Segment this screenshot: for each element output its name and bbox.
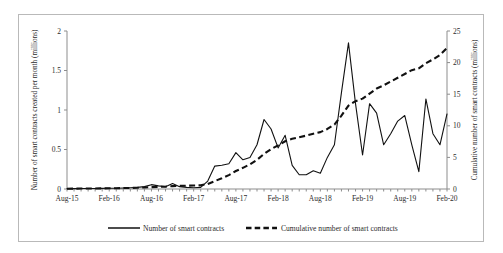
series-cumulative-line: [67, 48, 447, 189]
x-tick-label: Feb-18: [267, 194, 288, 203]
x-tick-label: Feb-16: [99, 194, 120, 203]
right-tick-label: 15: [453, 90, 461, 99]
chart-legend: Number of smart contracts Cumulative num…: [108, 224, 398, 233]
right-tick-label: 20: [453, 58, 461, 67]
left-tick-label: 1: [57, 106, 61, 115]
left-tick-label: 2: [57, 27, 61, 36]
right-tick-label: 10: [453, 121, 461, 130]
left-tick-label: 0.5: [52, 145, 62, 154]
right-tick-label: 25: [453, 27, 461, 36]
right-axis: 0510152025 Cumulative number of smart co…: [447, 27, 479, 194]
x-tick-label: Aug-17: [224, 194, 247, 203]
left-axis-title-line1: Number of smart contracts created per mo…: [31, 29, 39, 190]
left-tick-label: 0: [57, 185, 61, 194]
series-monthly-line: [67, 43, 447, 189]
x-tick-label: Feb-19: [352, 194, 373, 203]
left-axis-ticks: 00.511.52: [52, 27, 67, 194]
x-axis-tick-labels: Aug-15Feb-16Aug-16Feb-17Aug-17Feb-18Aug-…: [56, 194, 458, 203]
right-tick-label: 0: [453, 185, 457, 194]
x-tick-label: Feb-17: [183, 194, 204, 203]
bottom-axis: Aug-15Feb-16Aug-16Feb-17Aug-17Feb-18Aug-…: [56, 189, 458, 203]
right-tick-label: 5: [453, 153, 457, 162]
right-axis-title: Cumulative number of smart contracts (mi…: [471, 39, 479, 180]
left-tick-label: 1.5: [52, 66, 62, 75]
x-tick-label: Aug-15: [56, 194, 79, 203]
legend-label-monthly: Number of smart contracts: [143, 224, 224, 233]
x-tick-label: Aug-19: [393, 194, 416, 203]
legend-label-cumulative: Cumulative number of smart contracts: [281, 224, 398, 233]
right-axis-ticks: 0510152025: [447, 27, 461, 194]
x-tick-label: Aug-18: [309, 194, 332, 203]
chart-figure: 00.511.52 Number of smart contracts crea…: [0, 0, 503, 253]
left-axis: 00.511.52 Number of smart contracts crea…: [31, 27, 67, 194]
x-tick-label: Feb-20: [436, 194, 457, 203]
chart-svg: 00.511.52 Number of smart contracts crea…: [0, 0, 503, 253]
x-tick-label: Aug-16: [140, 194, 163, 203]
